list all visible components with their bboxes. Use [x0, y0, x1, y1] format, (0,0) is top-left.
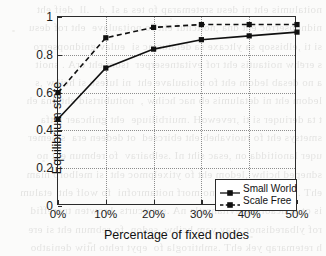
data-point-marker	[294, 30, 299, 35]
data-point-marker	[103, 65, 108, 70]
legend-swatch-solid-square-icon	[219, 184, 241, 194]
y-tick-label: 1	[46, 10, 53, 24]
data-point-marker	[151, 47, 156, 52]
y-tick-label: 0.4	[36, 123, 53, 137]
data-point-marker	[55, 116, 60, 121]
x-tick-label: 10%	[94, 208, 117, 220]
y-tick-label: 0.6	[36, 86, 53, 100]
chart-legend[interactable]: Small World Scale Free	[215, 179, 297, 211]
data-point-marker	[151, 25, 156, 30]
legend-item-small-world[interactable]: Small World	[219, 183, 293, 194]
legend-label-scale-free: Scale Free	[243, 196, 291, 206]
series-plot	[58, 17, 297, 206]
x-tick-mark	[297, 200, 298, 204]
y-tick-label: 0.2	[36, 161, 53, 175]
data-point-marker	[247, 33, 252, 38]
data-point-marker	[103, 35, 108, 40]
data-point-marker	[294, 22, 299, 27]
x-tick-label: 20%	[142, 208, 165, 220]
series-line-small-world	[58, 32, 297, 119]
legend-swatch-dashed-square-icon	[219, 196, 241, 206]
data-point-marker	[199, 37, 204, 42]
y-tick-mark	[58, 206, 62, 207]
y-tick-label: 0.8	[36, 48, 53, 62]
x-tick-label: 30%	[190, 208, 213, 220]
x-axis-title: Percentage of fixed nodes	[57, 228, 296, 242]
data-point-marker	[247, 22, 252, 27]
legend-label-small-world: Small World	[243, 184, 297, 194]
chart-figure: noitalumis eht ni desu sretemarap fo tes…	[0, 0, 326, 256]
x-tick-label: 0%	[50, 208, 67, 220]
data-point-marker	[199, 22, 204, 27]
legend-item-scale-free[interactable]: Scale Free	[219, 195, 293, 206]
plot-area: 00.20.40.60.81 0%10%20%30%40%50%	[57, 16, 296, 205]
data-point-marker	[55, 90, 60, 95]
